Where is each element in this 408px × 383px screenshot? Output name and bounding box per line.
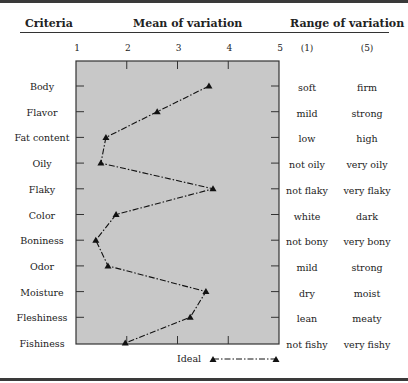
plot-area bbox=[76, 61, 279, 344]
legend-label: Ideal bbox=[177, 353, 201, 364]
profile-plot bbox=[0, 0, 408, 383]
bottom-border bbox=[0, 378, 408, 381]
legend-swatch bbox=[210, 356, 280, 362]
